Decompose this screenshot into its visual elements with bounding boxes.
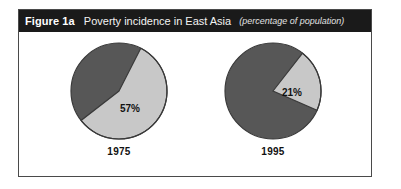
figure-number-label: Figure 1a (25, 15, 75, 27)
pie-svg-1975: 57% (68, 40, 170, 142)
pie-svg-1995: 21% (222, 40, 324, 142)
figure-title-bar: Figure 1a Poverty incidence in East Asia… (19, 10, 371, 32)
pie-year-label-1995: 1995 (213, 146, 333, 157)
figure-title: Poverty incidence in East Asia (84, 15, 231, 27)
pie-year-label-1975: 1975 (59, 146, 179, 157)
pie-value-label-1995: 21% (282, 87, 302, 98)
pie-chart-1995: 21% 1995 (213, 40, 333, 172)
pie-value-label-1975: 57% (120, 103, 140, 114)
pie-chart-1975: 57% 1975 (59, 40, 179, 172)
figure-subtitle: (percentage of population) (239, 16, 344, 26)
chart-plot-area: 57% 1975 21% 1995 (19, 32, 371, 176)
figure-frame: Figure 1a Poverty incidence in East Asia… (18, 9, 372, 177)
